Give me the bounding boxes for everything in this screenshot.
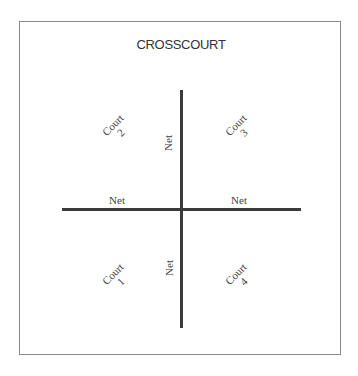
vertical-net-line: [180, 90, 183, 328]
net-label-horizontal-left: Net: [109, 195, 125, 206]
net-label-vertical-bottom: Net: [164, 260, 175, 276]
net-label-vertical-top: Net: [163, 135, 174, 151]
diagram-title: CROSSCOURT: [0, 37, 358, 52]
net-label-horizontal-right: Net: [231, 195, 247, 206]
